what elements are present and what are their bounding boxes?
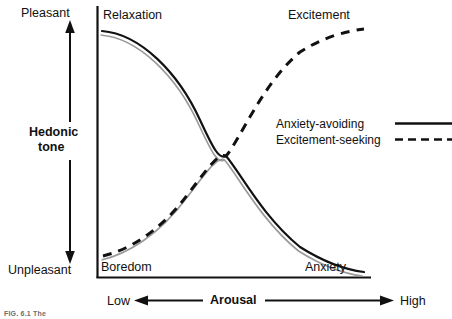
y-axis-title-line1: Hedonic [29, 126, 78, 139]
legend-item-excitement-seeking: Excitement-seeking [276, 134, 381, 146]
annotation-boredom: Boredom [101, 261, 152, 274]
x-axis-right-label: High [400, 295, 426, 308]
hedonic-tone-axis-arrows [65, 20, 75, 264]
anxiety-avoiding-curve [102, 31, 364, 272]
excitement-seeking-curve-shadow [102, 159, 225, 260]
y-axis-bottom-label: Unpleasant [8, 264, 71, 277]
x-axis-left-label: Low [107, 295, 130, 308]
figure-caption: FIG. 6.1 The [4, 310, 46, 317]
annotation-anxiety: Anxiety [305, 261, 346, 274]
annotation-relaxation: Relaxation [103, 9, 162, 22]
figure-panel: Pleasant Unpleasant Hedonic tone Relaxat… [0, 0, 452, 319]
y-axis-title-line2: tone [38, 141, 64, 154]
arousal-axis-arrows [134, 296, 394, 306]
y-axis-top-label: Pleasant [21, 7, 70, 20]
legend-item-anxiety-avoiding: Anxiety-avoiding [276, 118, 364, 130]
x-axis-title: Arousal [210, 294, 257, 307]
annotation-excitement: Excitement [288, 9, 350, 22]
